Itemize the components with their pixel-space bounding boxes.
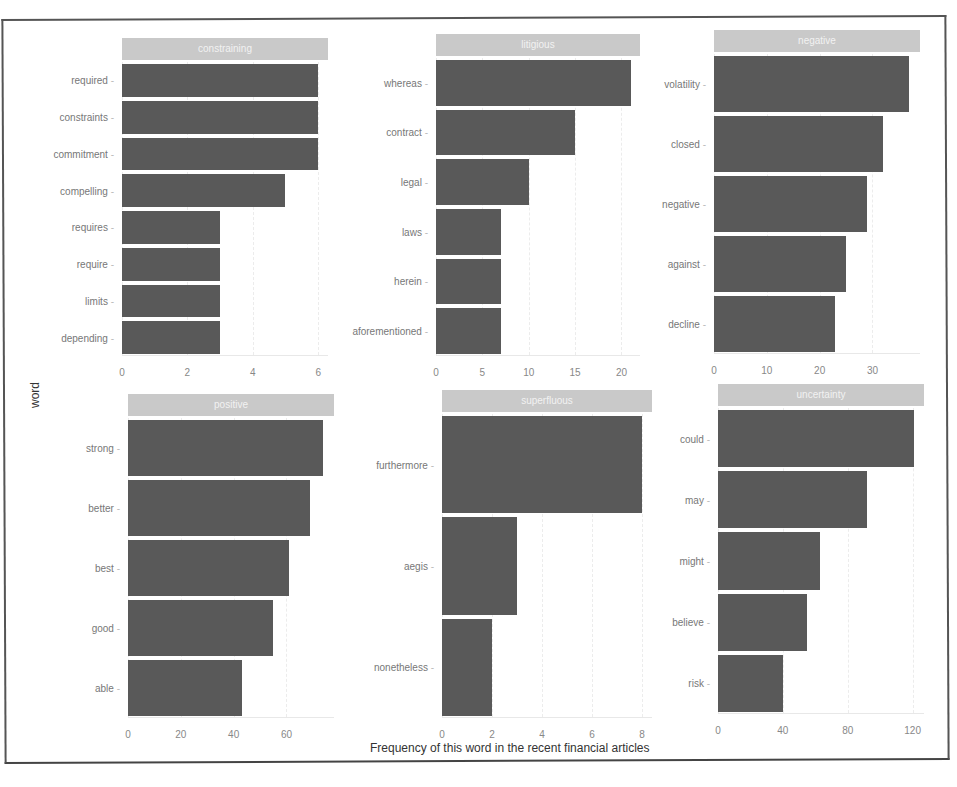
bar-row: compelling	[122, 172, 328, 209]
bar-row: able	[128, 658, 334, 718]
bar	[436, 259, 501, 305]
category-label: strong	[86, 443, 120, 454]
category-label: might	[679, 555, 710, 566]
x-tick-label: 4	[250, 367, 256, 378]
category-label: furthermore	[376, 459, 434, 470]
facet-positive: positivestrongbetterbestgoodable0204060	[128, 394, 334, 740]
x-tick-label: 80	[842, 725, 853, 736]
x-tick-label: 120	[904, 725, 921, 736]
x-tick-label: 15	[570, 367, 581, 378]
bar-row: nonetheless	[442, 617, 652, 718]
bar-row: risk	[718, 653, 924, 714]
bar-row: require	[122, 246, 328, 283]
y-axis-title: word	[28, 382, 42, 408]
bar	[128, 540, 289, 596]
category-label: laws	[402, 226, 428, 237]
x-tick-label: 2	[185, 367, 191, 378]
bar-row: might	[718, 530, 924, 591]
bar	[718, 594, 807, 651]
category-label: compelling	[60, 185, 114, 196]
bar-row: believe	[718, 592, 924, 653]
category-label: whereas	[384, 77, 428, 88]
x-axis-title: Frequency of this word in the recent fin…	[370, 741, 649, 755]
bar	[436, 209, 501, 255]
category-label: decline	[668, 319, 706, 330]
bar	[714, 236, 846, 292]
bar-row: contract	[436, 108, 640, 158]
category-label: herein	[394, 276, 428, 287]
facet-strip-label: superfluous	[442, 390, 652, 412]
bar-row: constraints	[122, 99, 328, 136]
x-tick-label: 40	[228, 729, 239, 740]
bar	[714, 56, 909, 112]
facet-strip-label: positive	[128, 394, 334, 416]
bar	[122, 174, 285, 207]
category-label: constraints	[60, 112, 114, 123]
bar-row: better	[128, 478, 334, 538]
bar-row: requires	[122, 209, 328, 246]
x-tick-label: 5	[480, 367, 486, 378]
x-tick-label: 20	[814, 365, 825, 376]
bar	[436, 110, 575, 156]
category-label: requires	[72, 222, 114, 233]
bar-row: aegis	[442, 515, 652, 616]
category-label: depending	[61, 332, 114, 343]
bar-row: furthermore	[442, 414, 652, 515]
bar	[714, 176, 867, 232]
x-tick-label: 0	[439, 729, 445, 740]
bar	[718, 655, 783, 712]
bar-row: against	[714, 234, 920, 294]
plot-area: couldmaymightbelieverisk	[718, 408, 924, 714]
plot-area: furthermoreaegisnonetheless	[442, 414, 652, 718]
bar	[718, 410, 914, 467]
plot-area: whereascontractlegallawshereinaforementi…	[436, 58, 640, 356]
category-label: good	[92, 623, 120, 634]
facet-superfluous: superfluousfurthermoreaegisnonetheless02…	[442, 390, 652, 740]
bar	[714, 116, 883, 172]
bar-row: volatility	[714, 54, 920, 114]
facet-strip-label: negative	[714, 30, 920, 52]
bar-row: strong	[128, 418, 334, 478]
bar-row: decline	[714, 294, 920, 354]
category-label: closed	[671, 139, 706, 150]
facet-uncertainty: uncertaintycouldmaymightbelieverisk04080…	[718, 384, 924, 736]
bar	[122, 64, 318, 97]
category-label: legal	[401, 177, 428, 188]
x-tick-label: 8	[639, 729, 645, 740]
plot-area: volatilityclosednegativeagainstdecline	[714, 54, 920, 354]
x-tick-label: 20	[616, 367, 627, 378]
category-label: may	[685, 494, 710, 505]
bar-row: herein	[436, 257, 640, 307]
category-label: nonetheless	[374, 662, 434, 673]
bar	[122, 321, 220, 354]
facet-litigious: litigiouswhereascontractlegallawshereina…	[436, 34, 640, 378]
x-tick-label: 0	[715, 725, 721, 736]
bar	[122, 138, 318, 171]
bar-row: required	[122, 62, 328, 99]
x-tick-label: 10	[761, 365, 772, 376]
x-tick-label: 30	[867, 365, 878, 376]
x-tick-label: 40	[777, 725, 788, 736]
bar	[714, 296, 835, 352]
bar	[442, 619, 492, 716]
category-label: commitment	[53, 148, 114, 159]
category-label: contract	[386, 127, 428, 138]
bar	[436, 60, 631, 106]
bar	[442, 416, 642, 513]
plot-area: strongbetterbestgoodable	[128, 418, 334, 718]
category-label: best	[95, 563, 120, 574]
category-label: against	[668, 259, 706, 270]
bar-row: closed	[714, 114, 920, 174]
category-label: require	[77, 259, 114, 270]
x-tick-label: 0	[119, 367, 125, 378]
category-label: believe	[672, 617, 710, 628]
bar-row: depending	[122, 319, 328, 356]
bar-row: commitment	[122, 136, 328, 173]
bar	[122, 285, 220, 318]
category-label: risk	[688, 678, 710, 689]
bar-row: could	[718, 408, 924, 469]
x-tick-label: 0	[125, 729, 131, 740]
x-tick-label: 10	[523, 367, 534, 378]
x-tick-label: 4	[539, 729, 545, 740]
x-tick-label: 6	[315, 367, 321, 378]
